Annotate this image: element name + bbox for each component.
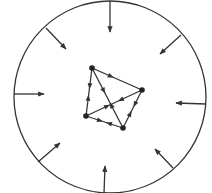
inward-arrow xyxy=(160,35,181,54)
edge-arrowhead-icon xyxy=(97,117,104,123)
edge-arrowhead-icon xyxy=(131,101,138,109)
graph-node xyxy=(83,113,89,119)
inward-arrow xyxy=(104,166,105,193)
inward-arrows-layer xyxy=(14,1,206,193)
inward-arrow xyxy=(176,103,206,104)
edge-arrowhead-icon xyxy=(105,120,112,126)
graph-edges-layer xyxy=(86,68,142,128)
graph-node xyxy=(89,65,95,71)
inward-arrow xyxy=(155,149,173,168)
diagram-svg xyxy=(0,0,212,193)
inward-arrow xyxy=(38,143,60,162)
graph-node xyxy=(120,125,126,131)
graph-edge xyxy=(86,68,92,116)
edge-arrowhead-icon xyxy=(87,83,93,90)
edge-arrowhead-icon xyxy=(100,87,107,95)
graph-edge xyxy=(86,90,142,116)
inward-arrow xyxy=(46,28,66,49)
graph-node xyxy=(139,87,145,93)
edge-arrowhead-icon xyxy=(127,110,134,118)
edge-arrowhead-icon xyxy=(86,95,92,102)
edge-arrowhead-icon xyxy=(117,96,124,103)
edge-arrowhead-icon xyxy=(107,73,114,80)
graph-edge xyxy=(123,90,142,128)
graph-edge xyxy=(92,68,142,90)
graph-nodes-layer xyxy=(83,65,145,131)
diagram-canvas xyxy=(0,0,212,193)
